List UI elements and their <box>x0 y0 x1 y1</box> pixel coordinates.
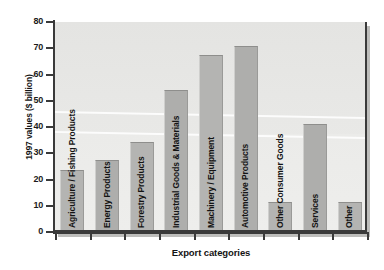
y-axis-tick <box>46 47 53 49</box>
y-axis-tick-label: 60 <box>33 70 43 79</box>
x-axis-tick <box>55 234 57 240</box>
y-axis-tick-label: 50 <box>33 96 43 105</box>
y-axis-tick <box>46 126 53 128</box>
x-axis-tick <box>367 234 369 240</box>
x-axis-tick <box>332 234 334 240</box>
category-label: Energy Products <box>103 161 112 228</box>
panel-shadow-right <box>367 26 370 236</box>
y-axis-tick <box>46 152 53 154</box>
category-label: Automotive Products <box>241 144 250 228</box>
y-axis-tick <box>46 205 53 207</box>
y-axis-tick <box>46 21 53 23</box>
y-axis-title: 1997 values ($ billion) <box>24 42 34 192</box>
y-axis-tick <box>46 74 53 76</box>
category-label: Forestry Products <box>137 156 146 228</box>
x-axis-tick <box>194 234 196 240</box>
x-axis-tick <box>90 234 92 240</box>
x-axis-tick <box>228 234 230 240</box>
y-axis-tick-label: 40 <box>33 122 43 131</box>
y-axis-tick-label: 30 <box>33 148 43 157</box>
y-axis-tick <box>46 231 53 233</box>
panel-shadow-bottom <box>58 234 370 237</box>
x-axis-line <box>53 232 369 234</box>
y-axis-tick-label: 70 <box>33 43 43 52</box>
x-axis-tick <box>124 234 126 240</box>
category-label: Other Consumer Goods <box>276 134 285 228</box>
y-axis-tick <box>46 100 53 102</box>
x-axis-title: Export categories <box>55 247 367 258</box>
category-label: Services <box>311 194 320 228</box>
category-label: Agriculture / Fishing Products <box>68 109 77 228</box>
y-axis-tick-label: 0 <box>38 227 43 236</box>
category-label: Other <box>345 206 354 228</box>
y-axis-line <box>53 20 55 234</box>
x-axis-tick <box>298 234 300 240</box>
y-axis-tick <box>46 179 53 181</box>
category-label: Industrial Goods & Materials <box>172 116 181 228</box>
y-axis-tick-label: 20 <box>33 175 43 184</box>
x-axis-tick <box>159 234 161 240</box>
bar-chart-figure: 01020304050607080 Agriculture / Fishing … <box>0 0 384 270</box>
y-axis-tick-label: 10 <box>33 201 43 210</box>
y-axis-tick-label: 80 <box>33 17 43 26</box>
x-axis-tick <box>263 234 265 240</box>
category-label: Machinery / Equipment <box>207 137 216 228</box>
